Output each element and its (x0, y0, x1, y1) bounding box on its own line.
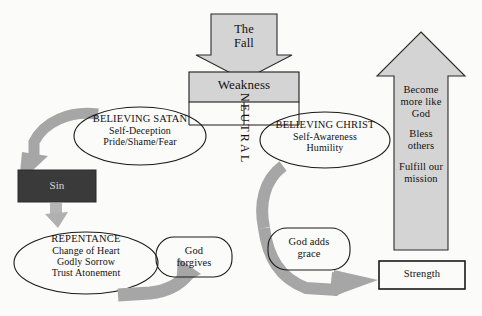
repentance-ellipse-shape (14, 232, 158, 294)
diagram-vector-layer (0, 0, 482, 316)
sin-to-repentance-arrow (45, 203, 68, 228)
god-adds-grace-box-shape (268, 228, 350, 270)
god-forgives-box-shape (156, 237, 232, 277)
believing-christ-ellipse-shape (260, 112, 390, 168)
diagram-canvas: The Fall Weakness BELIEVING SATAN Self-D… (0, 0, 482, 316)
believing-satan-ellipse-shape (74, 107, 206, 165)
sin-box-shape (18, 170, 96, 202)
the-fall-arrow-shape (196, 14, 292, 80)
strength-box-shape (379, 261, 465, 289)
weakness-box-shape (189, 72, 299, 102)
